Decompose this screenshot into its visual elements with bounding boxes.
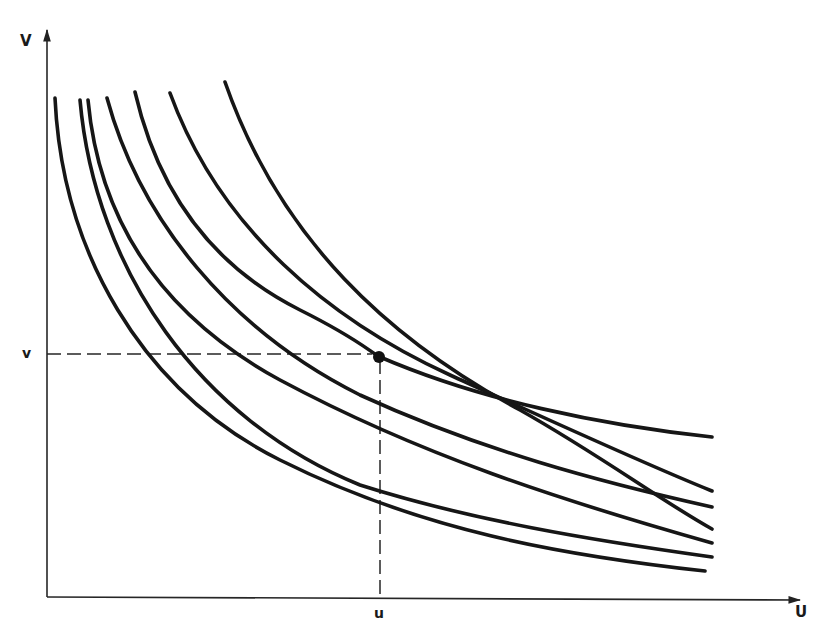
- curve-4: [107, 98, 712, 507]
- x-axis-label: U: [795, 603, 807, 621]
- x-axis: [47, 597, 800, 600]
- indifference-curve-diagram: [0, 0, 815, 628]
- curve-5: [135, 92, 712, 437]
- curve-6: [170, 93, 712, 491]
- y-axis-label: V: [20, 32, 32, 50]
- y-tick-label-v: v: [22, 345, 31, 361]
- curve-3: [88, 100, 712, 543]
- x-tick-label-u: u: [374, 605, 384, 621]
- marked-point: [373, 351, 385, 363]
